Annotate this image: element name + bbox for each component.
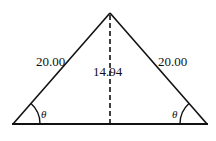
right-angle-label: θ xyxy=(172,108,178,120)
triangle-diagram: 20.00 14.94 20.00 θ θ xyxy=(0,0,216,141)
height-label: 14.94 xyxy=(93,64,123,79)
left-angle-arc xyxy=(31,104,40,125)
left-side-label: 20.00 xyxy=(36,54,65,69)
right-side-label: 20.00 xyxy=(158,54,187,69)
right-angle-arc xyxy=(180,104,189,125)
left-angle-label: θ xyxy=(41,108,47,120)
